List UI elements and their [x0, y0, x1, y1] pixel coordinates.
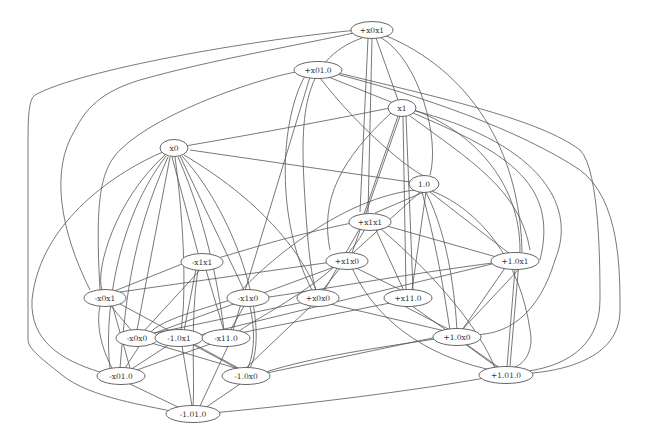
graph-edges — [28, 30, 620, 413]
graph-node: +x1x1 — [349, 214, 391, 231]
graph-edge — [230, 306, 244, 331]
graph-node: +1.01.0 — [479, 367, 533, 384]
graph-edge — [380, 224, 500, 258]
graph-edge — [190, 150, 410, 182]
graph-node: -1.01.0 — [166, 406, 220, 423]
graph-edge — [130, 344, 170, 370]
node-label: 1.0 — [418, 180, 430, 189]
graph-edge — [462, 268, 505, 330]
graph-node: 1.0 — [409, 176, 439, 193]
graph-node: +1.0x1 — [491, 253, 539, 270]
node-label: +x1x1 — [358, 218, 382, 227]
graph-node: -x01.0 — [97, 368, 145, 385]
graph-diagram: +x0x1+x01.0x1x01.0+x1x1-x1x1+x1x0+1.0x1-… — [0, 0, 649, 439]
graph-node: +x01.0 — [294, 62, 342, 79]
graph-edge — [426, 192, 457, 330]
graph-edge — [376, 230, 404, 291]
graph-edge — [75, 32, 358, 130]
node-label: -x1x1 — [192, 258, 213, 267]
graph-node: -1.0x0 — [222, 368, 270, 385]
graph-nodes: +x0x1+x01.0x1x01.0+x1x1-x1x1+x1x0+1.0x1-… — [84, 22, 539, 423]
graph-node: -x1x0 — [227, 290, 269, 307]
graph-node: -1.0x1 — [155, 330, 203, 347]
graph-edge — [422, 192, 450, 330]
graph-edge — [175, 157, 184, 330]
graph-edge — [205, 384, 240, 408]
node-label: +1.0x0 — [443, 333, 470, 342]
graph-edge — [412, 110, 561, 335]
node-label: +x0x1 — [360, 26, 384, 35]
graph-node: -x11.0 — [202, 330, 250, 347]
graph-node: +1.0x0 — [433, 329, 481, 346]
graph-edge — [61, 130, 90, 290]
graph-node: +x0x0 — [297, 290, 339, 307]
node-label: +x11.0 — [394, 294, 421, 303]
graph-edge — [320, 78, 424, 176]
graph-node: x1 — [388, 100, 416, 117]
node-label: -x11.0 — [214, 334, 238, 343]
graph-edge — [120, 262, 332, 292]
graph-edge — [101, 155, 165, 290]
node-label: x1 — [397, 104, 406, 113]
node-label: -x1x0 — [238, 294, 259, 303]
graph-edge — [150, 299, 233, 333]
graph-edge — [240, 190, 415, 292]
node-label: -x01.0 — [109, 372, 133, 381]
node-label: +x01.0 — [304, 66, 331, 75]
node-label: +1.01.0 — [491, 371, 521, 380]
node-label: -x0x0 — [127, 334, 148, 343]
graph-edge — [406, 116, 413, 290]
node-label: +x0x0 — [306, 294, 331, 303]
graph-node: x0 — [160, 140, 188, 157]
graph-edge — [185, 108, 390, 146]
node-label: +1.0x1 — [501, 257, 528, 266]
graph-edge — [237, 229, 365, 333]
graph-node: +x11.0 — [384, 290, 432, 307]
node-label: -1.0x1 — [167, 334, 190, 343]
graph-edge — [403, 116, 406, 290]
graph-node: -x0x1 — [84, 290, 126, 307]
node-label: +x1x0 — [335, 257, 360, 266]
node-label: -1.0x0 — [234, 372, 258, 381]
node-label: -x0x1 — [95, 294, 116, 303]
graph-node: -x0x0 — [116, 330, 158, 347]
graph-edge — [352, 268, 496, 371]
graph-edge — [412, 192, 426, 290]
node-label: -1.01.0 — [180, 410, 207, 419]
graph-node: -x1x1 — [181, 254, 223, 271]
graph-edge — [28, 30, 358, 150]
graph-edge — [172, 157, 198, 253]
node-label: x0 — [169, 144, 178, 153]
graph-edge — [368, 38, 372, 213]
graph-node: +x1x0 — [326, 253, 368, 270]
graph-edge — [137, 157, 170, 330]
graph-node: +x0x1 — [351, 22, 393, 39]
